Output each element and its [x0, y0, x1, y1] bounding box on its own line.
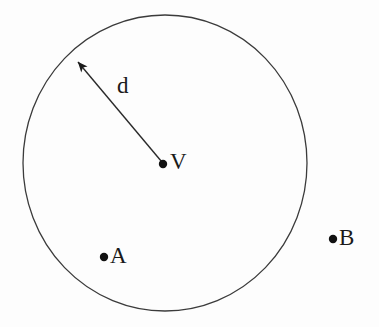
radius-label-d: d [117, 74, 129, 97]
point-label-b: B [339, 226, 354, 249]
point-label-v: V [170, 150, 187, 173]
diagram-canvas [0, 0, 379, 327]
point-dot-v [159, 160, 167, 168]
point-dot-b [329, 235, 337, 243]
point-dot-a [100, 253, 108, 261]
geometry-diagram: d V A B [0, 0, 379, 327]
point-label-a: A [110, 244, 127, 267]
